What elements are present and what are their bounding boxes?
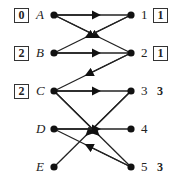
left-label-E: E — [36, 160, 44, 174]
left-box-A: 0 — [14, 8, 29, 23]
node-C — [50, 87, 57, 94]
node-2 — [127, 49, 134, 56]
left-label-C: C — [36, 84, 45, 98]
node-B — [50, 49, 57, 56]
arrow-icon — [54, 91, 96, 133]
arrow-icon — [89, 15, 131, 36]
arrow-icon — [89, 53, 131, 74]
node-4 — [127, 125, 134, 132]
arrow-icon — [89, 91, 131, 133]
right-box-1: 1 — [153, 8, 168, 23]
node-3 — [127, 87, 134, 94]
node-5 — [127, 163, 134, 170]
arrow-icon — [89, 146, 131, 167]
left-box-C: 2 — [14, 84, 29, 99]
right-label-5: 5 — [141, 160, 148, 174]
node-A — [50, 11, 57, 18]
left-label-B: B — [36, 46, 44, 60]
right-label-2: 2 — [141, 46, 148, 60]
node-1 — [127, 11, 134, 18]
arrow-icon — [54, 15, 96, 36]
left-label-A: A — [36, 8, 44, 22]
right-label-1: 1 — [141, 8, 148, 22]
right-label-4: 4 — [141, 122, 148, 136]
node-D — [50, 125, 57, 132]
right-box-2: 1 — [153, 46, 168, 61]
right-value-3: 3 — [157, 84, 163, 98]
left-label-D: D — [36, 122, 45, 136]
left-box-B: 2 — [14, 46, 29, 61]
node-E — [50, 163, 57, 170]
right-value-5: 3 — [157, 160, 163, 174]
right-label-3: 3 — [141, 84, 148, 98]
